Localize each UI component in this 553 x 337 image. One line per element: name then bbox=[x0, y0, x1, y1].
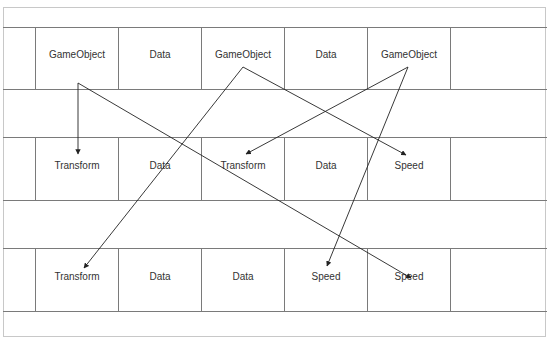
data-cell: Data bbox=[284, 28, 367, 89]
transform-cell: Transform bbox=[35, 138, 118, 200]
data-cell: Data bbox=[118, 28, 201, 89]
row-3-cell-0 bbox=[2, 249, 35, 311]
gameobject-cell: GameObject bbox=[35, 28, 118, 89]
row-1-cell-6 bbox=[450, 28, 547, 89]
transform-cell: Transform bbox=[201, 138, 284, 200]
data-cell: Data bbox=[284, 138, 367, 200]
gameobject-cell: GameObject bbox=[367, 28, 450, 89]
row-3: Transform Data Data Speed Speed bbox=[3, 248, 547, 312]
data-cell: Data bbox=[118, 249, 201, 311]
speed-cell: Speed bbox=[284, 249, 367, 311]
data-cell: Data bbox=[118, 138, 201, 200]
data-cell: Data bbox=[201, 249, 284, 311]
speed-cell: Speed bbox=[367, 249, 450, 311]
gameobject-cell: GameObject bbox=[201, 28, 284, 89]
row-2-cell-0 bbox=[2, 138, 35, 200]
row-1: GameObject Data GameObject Data GameObje… bbox=[3, 27, 547, 90]
row-2: Transform Data Transform Data Speed bbox=[3, 137, 547, 201]
row-3-cell-6 bbox=[450, 249, 547, 311]
speed-cell: Speed bbox=[367, 138, 450, 200]
row-1-cell-0 bbox=[2, 28, 35, 89]
row-2-cell-6 bbox=[450, 138, 547, 200]
transform-cell: Transform bbox=[35, 249, 118, 311]
